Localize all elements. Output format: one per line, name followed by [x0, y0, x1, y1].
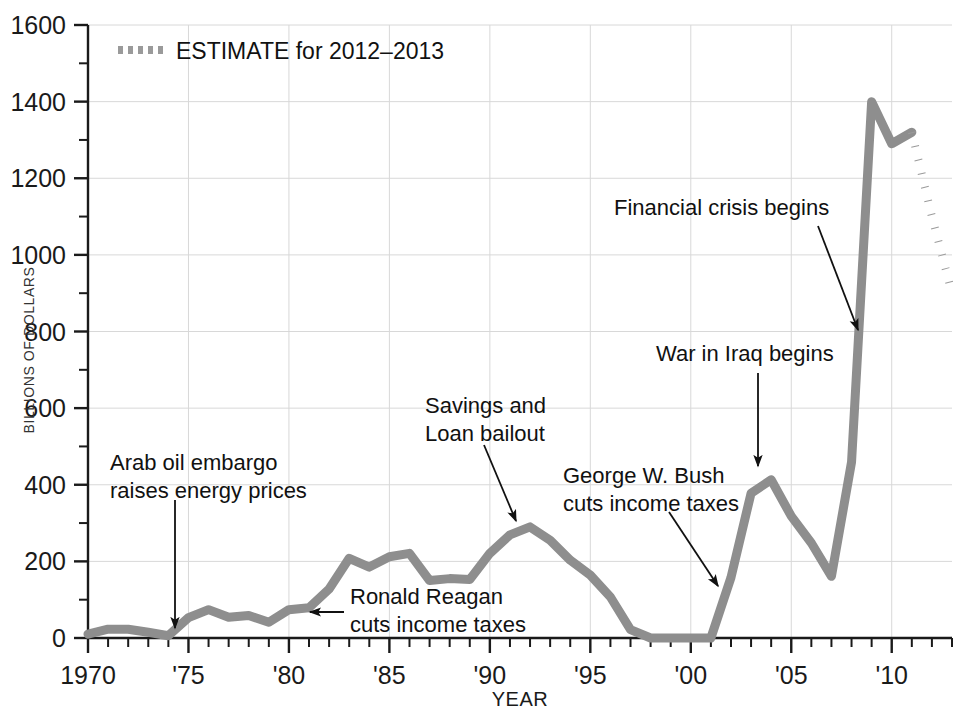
x-tick-label: '90	[474, 661, 507, 689]
x-axis-title: YEAR	[492, 688, 548, 710]
x-tick-labels: 1970'75'80'85'90'95'00'05'10	[60, 661, 908, 689]
y-tick-label: 1200	[10, 164, 66, 192]
annotation-line: War in Iraq begins	[656, 341, 834, 366]
x-tick-label: '05	[775, 661, 808, 689]
x-tick-label: '10	[875, 661, 908, 689]
x-tick-label: '95	[574, 661, 607, 689]
annotation-line: cuts income taxes	[350, 612, 526, 637]
annotation-text: War in Iraq begins	[656, 341, 834, 366]
x-tick-label: '00	[674, 661, 707, 689]
legend-label: ESTIMATE for 2012–2013	[176, 38, 444, 64]
annotation-line: Ronald Reagan	[350, 584, 503, 609]
y-tick-label: 200	[24, 547, 66, 575]
y-tick-label: 0	[52, 624, 66, 652]
annotation-line: cuts income taxes	[563, 491, 739, 516]
x-tick-label: '75	[172, 661, 205, 689]
annotation-line: Loan bailout	[425, 421, 545, 446]
deficit-line-chart: 02004006008001000120014001600 1970'75'80…	[0, 0, 974, 726]
y-tick-label: 400	[24, 471, 66, 499]
annotation-line: George W. Bush	[563, 463, 724, 488]
y-tick-label: 1600	[10, 11, 66, 39]
x-tick-label: 1970	[60, 661, 116, 689]
annotation-text: Financial crisis begins	[614, 195, 829, 220]
y-axis-title: BILLIONS OF DOLLARS	[21, 266, 37, 433]
annotation-line: Savings and	[425, 393, 546, 418]
y-tick-label: 1400	[10, 88, 66, 116]
y-tick-label: 1000	[10, 241, 66, 269]
annotation-line: Financial crisis begins	[614, 195, 829, 220]
annotation-line: raises energy prices	[110, 478, 307, 503]
x-tick-label: '80	[273, 661, 306, 689]
x-tick-label: '85	[373, 661, 406, 689]
annotation-line: Arab oil embargo	[110, 450, 278, 475]
chart-page: 02004006008001000120014001600 1970'75'80…	[0, 0, 974, 726]
